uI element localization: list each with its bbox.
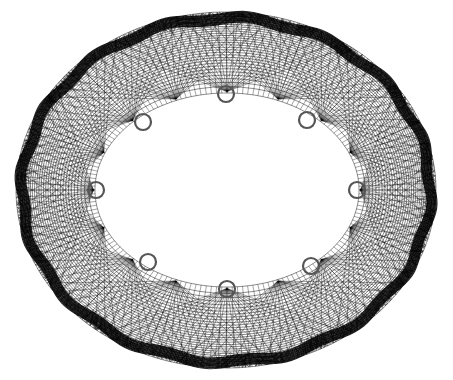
torus-wireframe-diagram (0, 0, 453, 380)
node-marker-m7 (88, 182, 104, 198)
node-markers (0, 0, 453, 380)
node-marker-m2 (299, 112, 315, 128)
node-marker-m5 (219, 281, 235, 297)
node-marker-m8 (135, 114, 151, 130)
node-marker-m3 (349, 182, 365, 198)
node-marker-m1 (218, 86, 234, 102)
node-marker-m6 (140, 254, 156, 270)
node-marker-m4 (303, 258, 319, 274)
